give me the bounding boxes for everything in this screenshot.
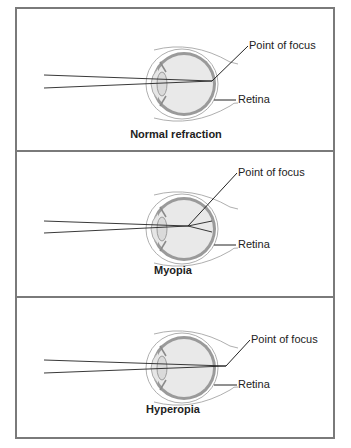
figure-frame: [15, 7, 335, 439]
retina-label: Retina: [238, 378, 270, 390]
panel-title: Hyperopia: [146, 403, 200, 415]
focus-label: Point of focus: [238, 166, 305, 178]
focus-label: Point of focus: [251, 333, 318, 345]
panel-title: Myopia: [154, 264, 192, 276]
retina-label: Retina: [238, 93, 270, 105]
panel-divider: [17, 150, 333, 152]
panel-divider: [17, 296, 333, 298]
focus-label: Point of focus: [249, 39, 316, 51]
retina-label: Retina: [238, 238, 270, 250]
panel-title: Normal refraction: [130, 128, 222, 140]
